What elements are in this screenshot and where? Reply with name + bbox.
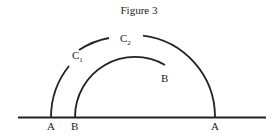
figure-3: Figure 3 C1 C2 B A B A (0, 0, 278, 138)
label-b-base: B (71, 120, 78, 132)
outer-arc-middle-segment (79, 38, 109, 50)
label-a-left: A (47, 120, 55, 132)
label-a-right: A (211, 120, 219, 132)
diagram-canvas (0, 0, 278, 138)
inner-arc (75, 57, 165, 117)
label-b-inner: B (161, 72, 168, 84)
label-c1: C1 (72, 49, 83, 64)
label-c2: C2 (120, 32, 131, 47)
outer-arc-right-segment (143, 36, 215, 117)
outer-arc-left-segment (51, 66, 69, 117)
